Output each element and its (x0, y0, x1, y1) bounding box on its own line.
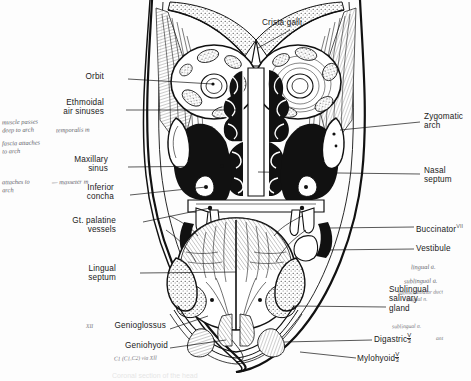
label-orbit: Orbit (34, 72, 104, 81)
annotation-sublingual-artery-lower: sublingual a. (392, 322, 421, 331)
annotation-fascia-attaches: fascia attaches to arch (2, 139, 41, 156)
leader-sublingual-gland (294, 306, 386, 307)
label-mylohyoid-text: Mylohyoid (357, 354, 395, 363)
plate-linework (126, 0, 420, 372)
annotation-muscle-passes-deep: muscle passes deep to arch (2, 118, 38, 135)
figure-canvas: Orbit Ethmoidal air sinuses Maxillary si… (0, 0, 471, 381)
label-buccinator-text: Buccinator (416, 225, 456, 234)
annotation-digastric-anterior: ant (436, 334, 443, 342)
label-maxillary-sinus: Maxillary sinus (20, 155, 108, 174)
leader-zygomatic-arch (340, 122, 420, 130)
label-ethmoidal-air-sinuses: Ethmoidal air sinuses (20, 98, 104, 117)
label-digastric-nerve: V3 (407, 333, 411, 344)
leader-buccinator (330, 227, 414, 228)
label-digastric: DigastricV3 (374, 333, 411, 344)
annotation-attaches-to-arch: attaches to arch (2, 178, 30, 195)
faint-caption: Coronal section of the head (112, 372, 198, 379)
label-buccinator: BuccinatorVII (416, 222, 463, 234)
hard-palate (188, 200, 324, 212)
label-buccinator-nerve: VII (456, 223, 463, 229)
label-geniohyoid: Geniohyoid (66, 341, 168, 350)
leader-vestibule (324, 249, 414, 250)
label-gt-palatine-vessels: Gt. palatine vessels (16, 216, 116, 235)
label-mylohyoid-nerve: V3 (395, 352, 399, 363)
label-zygomatic-arch: Zygomatic arch (424, 112, 463, 131)
annotation-genioglossus-nerve: XII (86, 322, 93, 330)
leader-mylohyoid (300, 352, 356, 358)
orbit-right (255, 45, 341, 119)
label-nasal-septum: Nasal septum (424, 166, 452, 185)
annotation-lingual-artery: lingual a. (411, 263, 436, 272)
annotation-masseter: — masseter m (52, 178, 88, 187)
leader-digastric (284, 340, 372, 342)
annotation-lingual-nerve: lingual n. (406, 295, 428, 304)
label-vestibule: Vestibule (416, 244, 451, 253)
label-mylohyoid: MylohyoidV3 (357, 352, 399, 363)
annotation-temporalis: temporalis m (56, 126, 90, 135)
annotation-geniohyoid-nerve: C1 (C1,C2) via XII (114, 353, 157, 362)
label-genioglossus: Genioglossus (70, 321, 166, 330)
label-crista-galli: Crista galli (262, 18, 302, 27)
annotation-sublingual-artery-top: sublingual a. (404, 277, 438, 286)
label-digastric-text: Digastric (374, 335, 407, 344)
label-lingual-septum: Lingual septum (30, 264, 116, 283)
